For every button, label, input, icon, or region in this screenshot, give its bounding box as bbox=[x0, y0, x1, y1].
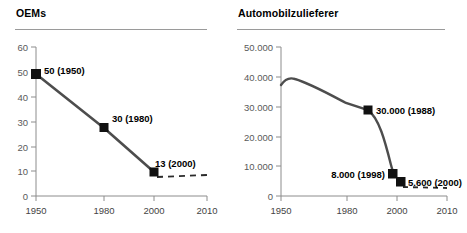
y-tick-label: 0 bbox=[23, 191, 28, 202]
x-tick-label: 2000 bbox=[386, 205, 407, 216]
x-tick-label: 1950 bbox=[270, 205, 291, 216]
data-label: 30 (1980) bbox=[112, 113, 153, 124]
chart-panel-oems: OEMs 60 50 40 30 20 10 0 bbox=[0, 0, 233, 233]
data-marker bbox=[100, 123, 109, 132]
data-label: 8.000 (1998) bbox=[331, 169, 385, 180]
data-label: 13 (2000) bbox=[155, 158, 196, 169]
x-ticks-oems bbox=[36, 196, 207, 201]
y-tick-label: 40.000 bbox=[244, 72, 273, 83]
y-tick-label: 10.000 bbox=[244, 161, 273, 172]
data-line-suppliers bbox=[281, 78, 395, 174]
x-tick-label: 1980 bbox=[93, 205, 114, 216]
plot-suppliers: 50.000 40.000 30.000 20.000 10.000 0 195… bbox=[233, 0, 467, 233]
y-tick-label: 0 bbox=[268, 191, 273, 202]
x-tick-label: 1980 bbox=[336, 205, 357, 216]
y-tick-label: 30 bbox=[17, 117, 28, 128]
y-tick-label: 40 bbox=[17, 92, 28, 103]
x-tick-label: 2010 bbox=[436, 205, 457, 216]
x-tick-label: 2010 bbox=[196, 205, 217, 216]
y-tick-label: 50.000 bbox=[244, 42, 273, 53]
data-marker bbox=[31, 69, 41, 79]
chart-panel-suppliers: Automobilzulieferer 50.000 40.000 30.000… bbox=[233, 0, 467, 233]
y-tick-label: 20 bbox=[17, 142, 28, 153]
x-tick-label: 2000 bbox=[143, 205, 164, 216]
data-label: 50 (1950) bbox=[44, 65, 85, 76]
y-tick-label: 30.000 bbox=[244, 102, 273, 113]
y-ticks-suppliers bbox=[276, 47, 281, 196]
projection-line-oems bbox=[157, 175, 207, 177]
x-ticks-suppliers bbox=[281, 196, 447, 201]
y-tick-label: 60 bbox=[17, 42, 28, 53]
data-label: 30.000 (1988) bbox=[376, 105, 435, 116]
y-tick-label: 10 bbox=[17, 166, 28, 177]
data-marker bbox=[396, 177, 406, 187]
y-tick-label: 20.000 bbox=[244, 132, 273, 143]
plot-oems: 60 50 40 30 20 10 0 1950 1980 2000 2010 … bbox=[0, 0, 233, 233]
x-tick-label: 1950 bbox=[25, 205, 46, 216]
y-tick-label: 50 bbox=[17, 67, 28, 78]
data-marker bbox=[364, 106, 373, 115]
data-label: 5.600 (2000) bbox=[408, 177, 462, 188]
